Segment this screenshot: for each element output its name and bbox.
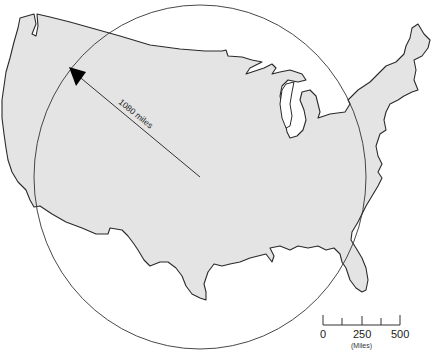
scale-unit-label: (Miles) [351, 342, 372, 350]
scale-tick-0: 0 [320, 328, 326, 340]
scale-bar: 0 250 500 (Miles) [320, 315, 409, 350]
scale-tick-500: 500 [391, 328, 409, 340]
scale-tick-250: 250 [353, 328, 371, 340]
us-map: 1080 miles 0 250 500 (Miles) [0, 0, 433, 355]
us-landmass [2, 14, 430, 300]
